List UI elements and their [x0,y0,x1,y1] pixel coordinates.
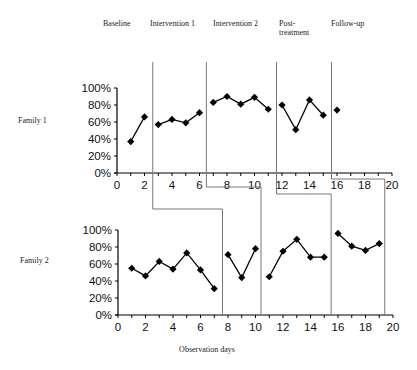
x-tick-label: 12 [276,179,289,191]
data-point [292,126,299,133]
data-point [128,265,135,272]
data-point [223,93,230,100]
y-tick-label: 80% [88,99,111,111]
y-tick-label: 40% [88,133,111,145]
y-tick-label: 100% [82,82,111,94]
data-point [141,113,148,120]
multiple-baseline-chart: Baseline Intervention 1 Intervention 2 P… [0,0,417,370]
x-tick-label: 0 [114,179,120,191]
y-tick-label: 0% [94,167,111,179]
data-point [333,107,340,114]
series-line [338,233,379,250]
x-tick-label: 4 [170,321,177,333]
x-tick-label: 14 [303,179,316,191]
family-1-panel: 0%20%40%60%80%100%02468101214161820 [82,82,399,191]
data-point [266,273,273,280]
family-2-panel: 0%20%40%60%80%100%02468101214161820 [83,224,400,333]
data-point [376,240,383,247]
y-tick-label: 20% [88,150,111,162]
data-point [237,101,244,108]
data-point [210,99,217,106]
data-point [252,245,259,252]
x-tick-label: 10 [249,321,262,333]
data-point [238,274,245,281]
x-tick-label: 8 [225,321,231,333]
phase-label-treatment: treatment [279,28,310,37]
phase-label-baseline: Baseline [103,19,131,28]
y-tick-label: 80% [89,241,112,253]
data-point [362,247,369,254]
data-point [321,254,328,261]
data-point [127,138,134,145]
x-axis-title: Observation days [179,345,235,354]
x-tick-label: 2 [142,321,148,333]
data-point [278,101,285,108]
x-tick-label: 0 [115,321,121,333]
x-tick-label: 16 [332,321,345,333]
phase-label-intervention-1: Intervention 1 [150,19,195,28]
series-line [228,249,256,278]
series-line [158,113,199,125]
x-tick-label: 20 [386,179,399,191]
phase-label-intervention-2: Intervention 2 [213,19,258,28]
data-point [224,251,231,258]
y-tick-label: 0% [95,309,112,321]
x-tick-label: 12 [277,321,290,333]
family-2-label: Family 2 [20,256,49,265]
y-tick-label: 60% [89,258,112,270]
x-tick-label: 2 [141,179,147,191]
phase-change-line [153,62,223,315]
x-tick-label: 18 [359,321,372,333]
y-tick-label: 100% [83,224,112,236]
data-point [168,116,175,123]
x-tick-label: 6 [196,179,202,191]
phase-label-follow-up: Follow-up [331,19,364,28]
x-tick-label: 14 [304,321,317,333]
x-tick-label: 18 [358,179,371,191]
y-tick-label: 40% [89,275,112,287]
series-line [131,117,145,142]
y-tick-label: 20% [89,292,112,304]
x-tick-label: 6 [197,321,203,333]
x-tick-label: 4 [169,179,176,191]
family-1-label: Family 1 [18,116,47,125]
series-line [269,239,324,276]
x-tick-label: 16 [331,179,344,191]
data-point [155,121,162,128]
x-tick-label: 10 [248,179,261,191]
x-tick-label: 20 [387,321,400,333]
phase-label-post: Post- [279,19,296,28]
y-tick-label: 60% [88,116,111,128]
x-tick-label: 8 [224,179,230,191]
series-line [282,100,323,130]
